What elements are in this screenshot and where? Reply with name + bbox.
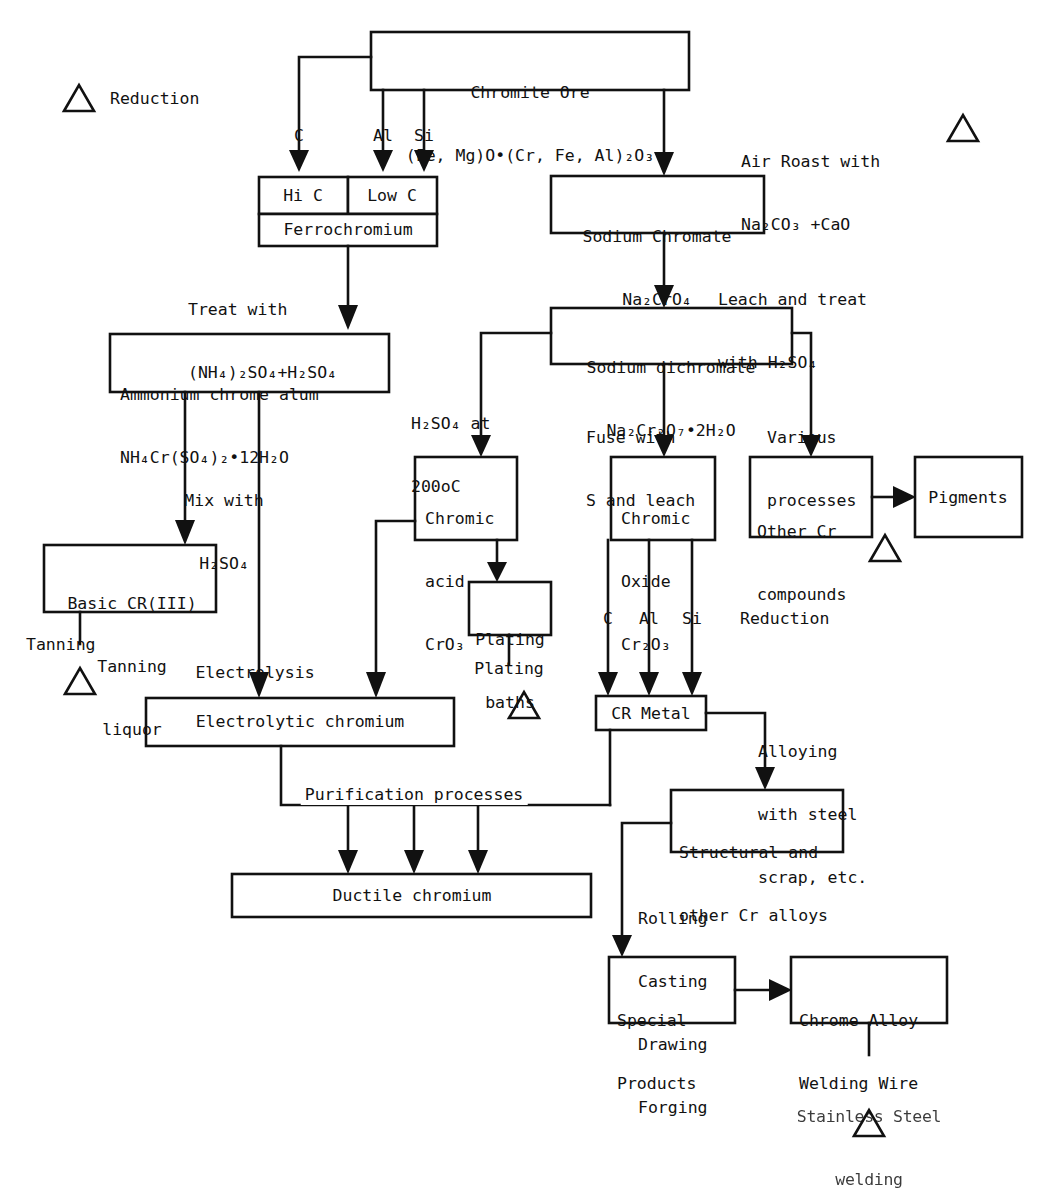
label-pigments: Pigments [928,487,1007,508]
edge-dichromate-to-chromic-acid [481,333,551,435]
arrowhead-metal-c [598,672,618,696]
arrowhead-welding-wire [769,979,792,1001]
label-hi-c: Hi C [283,185,323,206]
arrowhead-special-products [612,935,632,957]
label-reductant-al: Al [373,125,393,146]
label-metal-al: Al [639,608,659,629]
label-reductant-c: C [294,125,304,146]
triangle-icon-reduction-top [64,85,94,111]
label-stainless-welding: Stainless Steel welding [797,1064,942,1192]
arrowhead-sodium-chromate [654,152,674,176]
label-metal-c: C [603,608,613,629]
label-reductant-si: Si [414,125,434,146]
label-chromite-ore: Chromite Ore (Fe, Mg)O•(Cr, Fe, Al)₂O₃ [406,40,654,208]
label-electrolysis: Electrolysis [195,662,314,683]
edge-ore-to-c [299,57,371,150]
label-ductile-chromium: Ductile chromium [333,885,492,906]
arrowhead-ductile-2 [404,850,424,874]
arrowhead-alum [338,305,358,330]
label-electrolytic-chromium: Electrolytic chromium [196,711,405,732]
edge-cr-metal-to-structural [706,713,765,767]
arrowhead-ductile-1 [338,850,358,874]
arrowhead-c [289,150,309,172]
label-chromic-oxide: Chromic Oxide Cr₂O₃ [621,466,691,697]
edge-chromic-acid-to-electrolytic [376,521,415,672]
label-basic-cr-iii: Basic CR(III) Tanning liquor [67,551,196,782]
label-ferrochromium: Ferrochromium [283,219,412,240]
arrowhead-al [373,150,393,172]
triangle-icon-air-roast [948,115,978,141]
label-low-c: Low C [367,185,417,206]
arrowhead-ductile-3 [468,850,488,874]
label-tanning: Tanning [26,634,96,655]
label-reduction-metal: Reduction [740,608,829,629]
label-plating: Plating [474,658,544,679]
label-cr-metal: CR Metal [611,703,690,724]
arrowhead-pigments [893,486,916,508]
label-metal-si: Si [682,608,702,629]
arrowhead-electrolytic-2 [366,672,386,698]
label-purification-processes: Purification processes [301,784,528,805]
label-special-products: Special Products [617,968,696,1136]
triangle-icon-pigments [870,535,900,561]
label-reduction-top: Reduction [110,88,199,109]
